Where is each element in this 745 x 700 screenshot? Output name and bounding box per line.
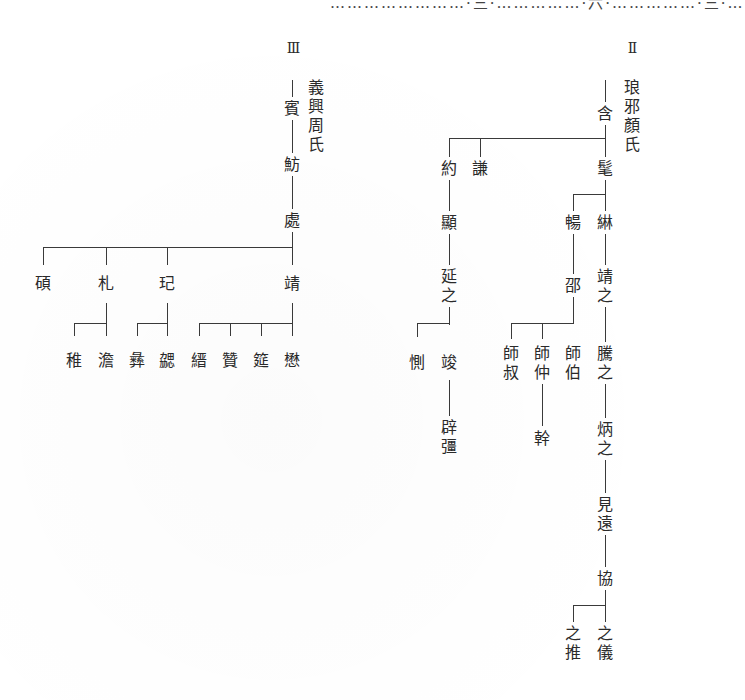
person-jianyuan: 見遠 [596,493,614,535]
person-shishu: 師叔 [502,342,520,384]
lineage-line [449,380,450,418]
branch-line [417,323,449,324]
person-gan: 幹 [533,427,551,450]
drop-line [292,247,293,265]
person-shizhong: 師仲 [533,342,551,384]
lineage-line [542,384,543,426]
person-shuo: 碩 [34,272,52,295]
drop-line [511,323,512,339]
person-qi: 玘 [158,272,176,295]
person-shao: 邵 [564,274,582,297]
person-xie: 勰 [158,349,176,372]
person-yue: 約 [440,157,458,180]
drop-line [480,138,481,158]
person-mao: 髦 [596,157,614,180]
person-bijiang: 辟彊 [440,416,458,458]
person-chen: 綝 [596,211,614,234]
drop-line [449,138,450,158]
person-han: 含 [596,102,614,125]
person-yanzhi: 延之 [440,265,458,307]
drop-line [230,323,231,336]
person-yizhi: 之儀 [596,622,614,664]
person-fang: 魴 [283,153,301,176]
page-header-cropped: ……………………·三·……………·六·……………·三·… [330,0,745,12]
person-mao: 懋 [283,349,301,372]
drop-line [137,323,138,336]
person-jing: 靖 [283,272,301,295]
branch-line [573,605,605,606]
person-bingzhi: 炳之 [596,418,614,460]
person-tan: 澹 [97,349,115,372]
drop-line [74,323,75,336]
person-jingzhi: 靖之 [596,265,614,307]
branch-line [199,323,292,324]
person-jun: 竣 [440,351,458,374]
person-chang: 暢 [564,211,582,234]
clan-ii-roman-numeral: Ⅱ [628,40,637,56]
person-shibo: 師伯 [564,342,582,384]
branch-line [573,194,605,195]
person-ce: 惻 [408,351,426,374]
drop-line [106,303,107,336]
person-xian: 顯 [440,211,458,234]
clan-iii-name: 義興周氏 [307,78,325,154]
person-zha: 札 [97,272,115,295]
person-zhi: 稚 [65,349,83,372]
person-zan: 贊 [221,349,239,372]
drop-line [417,323,418,337]
person-tuizhi: 之推 [564,622,582,664]
person-yi: 彝 [128,349,146,372]
branch-line [449,138,605,139]
drop-line [167,247,168,265]
branch-line [137,323,167,324]
drop-line [199,323,200,336]
drop-line [43,247,44,265]
drop-line [542,323,543,339]
person-jin: 縉 [190,349,208,372]
person-yan: 筵 [252,349,270,372]
person-bin: 賓 [283,97,301,120]
drop-line [261,323,262,336]
drop-line [167,303,168,336]
drop-line [292,303,293,336]
clan-ii-name: 琅邪顏氏 [623,78,641,154]
branch-line [43,247,293,248]
person-xie: 協 [596,567,614,590]
person-tengzhi: 騰之 [596,342,614,384]
person-qian: 謙 [471,157,489,180]
drop-line [106,247,107,265]
branch-line [74,323,106,324]
person-chu: 處 [283,209,301,232]
clan-iii-roman-numeral: Ⅲ [287,40,300,56]
